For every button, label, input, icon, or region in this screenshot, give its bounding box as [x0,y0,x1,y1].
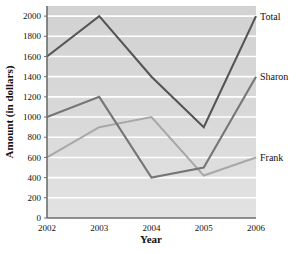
chart-canvas: 0200400600800100012001400160018002000 20… [0,0,304,254]
x-tick-label: 2002 [38,223,56,233]
y-tick-label: 200 [28,193,42,203]
x-tick-label: 2005 [195,223,214,233]
series-label-total: Total [260,11,281,22]
y-tick-labels: 0200400600800100012001400160018002000 [23,11,47,223]
y-axis-title: Amount (in dollars) [3,65,16,158]
series-label-sharon: Sharon [260,71,288,82]
y-tick-label: 1200 [23,92,42,102]
y-tick-label: 2000 [23,11,42,21]
y-tick-label: 0 [37,213,42,223]
y-tick-label: 1000 [23,112,42,122]
x-tick-label: 2003 [90,223,109,233]
y-tick-label: 1400 [23,72,42,82]
x-axis-title: Year [140,233,162,245]
y-tick-label: 800 [28,132,42,142]
y-tick-label: 1800 [23,31,42,41]
x-tick-labels: 20022003200420052006 [38,223,266,233]
series-inline-labels: TotalSharonFrank [260,11,288,163]
plot-background [47,6,256,218]
y-tick-label: 400 [28,173,42,183]
x-tick-label: 2006 [247,223,266,233]
y-tick-label: 600 [28,153,42,163]
line-chart: 0200400600800100012001400160018002000 20… [0,0,304,254]
y-tick-label: 1600 [23,52,42,62]
x-tick-label: 2004 [143,223,162,233]
series-label-frank: Frank [260,152,283,163]
